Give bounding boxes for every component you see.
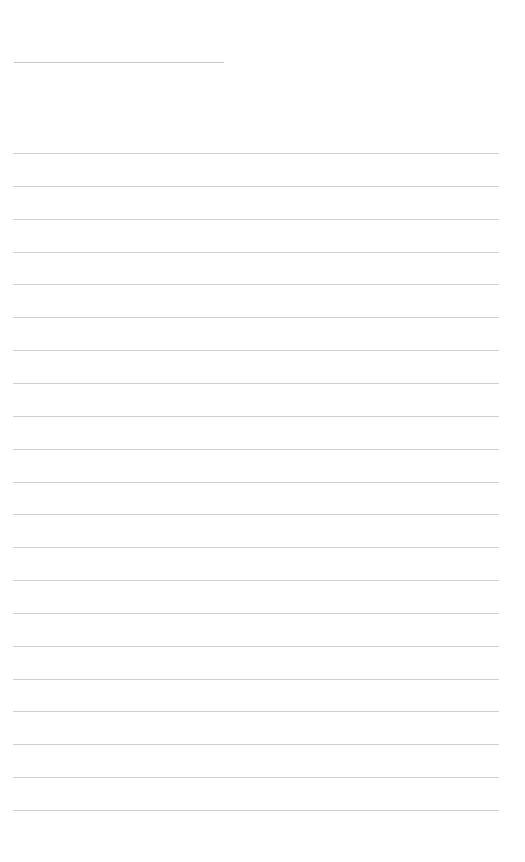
- ruled-line: [13, 810, 499, 811]
- ruled-line: [13, 679, 499, 680]
- ruled-line: [13, 580, 499, 581]
- ruled-line: [13, 252, 499, 253]
- ruled-line: [13, 613, 499, 614]
- ruled-line: [13, 744, 499, 745]
- ruled-line: [13, 350, 499, 351]
- ruled-line: [13, 219, 499, 220]
- ruled-line: [13, 646, 499, 647]
- ruled-line: [13, 514, 499, 515]
- ruled-line: [13, 416, 499, 417]
- ruled-line: [13, 317, 499, 318]
- ruled-line: [13, 284, 499, 285]
- ruled-line: [13, 482, 499, 483]
- ruled-line: [13, 711, 499, 712]
- ruled-line: [13, 547, 499, 548]
- ruled-line: [13, 186, 499, 187]
- ruled-line: [13, 383, 499, 384]
- ruled-line: [13, 449, 499, 450]
- ruled-line: [13, 153, 499, 154]
- ruled-line: [13, 777, 499, 778]
- title-line: [14, 62, 224, 63]
